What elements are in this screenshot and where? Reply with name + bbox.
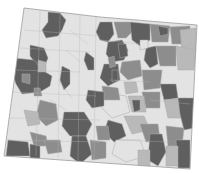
colorado-choropleth-map [0, 0, 199, 174]
map-region [118, 44, 128, 58]
map-region [124, 82, 138, 94]
map-region [140, 40, 148, 50]
map-region [166, 146, 178, 166]
map-region [22, 74, 30, 84]
map-region [158, 26, 168, 36]
map-region [96, 126, 110, 140]
map-region [6, 140, 30, 156]
map-region [38, 60, 46, 72]
map-region [102, 86, 120, 100]
map-region [30, 144, 40, 158]
map-region [142, 70, 162, 90]
map-region [90, 140, 106, 160]
map-region [138, 150, 150, 166]
map-region [176, 46, 196, 70]
